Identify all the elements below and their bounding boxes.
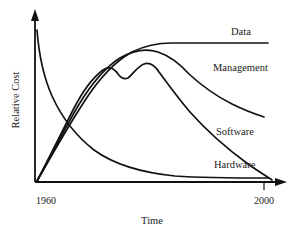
- x-tick-label-start: 1960: [36, 195, 56, 206]
- y-axis-title: Relative Cost: [10, 71, 21, 128]
- x-axis: [35, 178, 287, 190]
- series-label-data: Data: [231, 26, 251, 37]
- series-label-management: Management: [213, 62, 268, 73]
- x-axis-title: Time: [141, 215, 163, 226]
- x-tick-label-end: 2000: [254, 195, 274, 206]
- series-label-hardware: Hardware: [214, 159, 256, 170]
- series-label-software: Software: [216, 126, 254, 137]
- x-axis-arrow-icon: [275, 178, 287, 186]
- chart-canvas: Data Management Software Hardware 1960 2…: [0, 0, 299, 236]
- y-axis-arrow-icon: [31, 9, 39, 21]
- relative-cost-vs-time-chart: Data Management Software Hardware 1960 2…: [0, 0, 299, 236]
